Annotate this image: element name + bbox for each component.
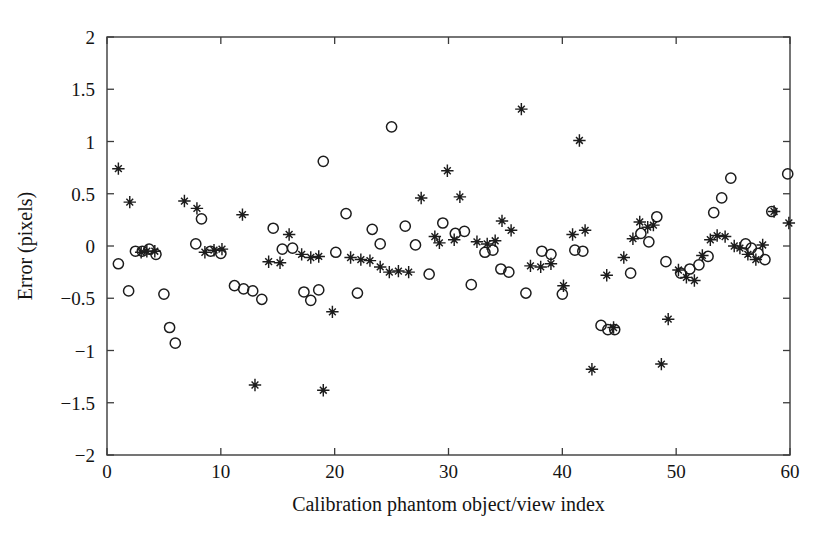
data-point-star (756, 239, 768, 251)
data-point-circle (165, 322, 175, 332)
data-point-star (496, 215, 508, 227)
data-point-circle (341, 209, 351, 219)
data-point-star (719, 230, 731, 242)
data-point-star (634, 216, 646, 228)
data-point-circle (196, 214, 206, 224)
x-tick-label: 40 (553, 461, 572, 482)
data-point-star (505, 224, 517, 236)
data-point-star (662, 313, 674, 325)
data-point-circle (459, 226, 469, 236)
data-point-circle (386, 122, 396, 132)
data-point-star (586, 363, 598, 375)
data-point-circle (726, 173, 736, 183)
y-tick-label: −0.5 (61, 288, 95, 309)
data-point-circle (277, 244, 287, 254)
data-point-circle (709, 207, 719, 217)
data-point-circle (661, 257, 671, 267)
data-point-star (573, 134, 585, 146)
plot-canvas: 0102030405060−2−1.5−1−0.500.511.52 Calib… (0, 0, 825, 541)
data-point-circle (314, 285, 324, 295)
y-axis-title: Error (pixels) (14, 192, 37, 300)
data-point-star (579, 224, 591, 236)
y-tick-label: 1 (86, 132, 96, 153)
data-point-star (415, 192, 427, 204)
data-point-star (454, 191, 466, 203)
data-point-circle (191, 239, 201, 249)
data-point-circle (521, 288, 531, 298)
data-point-circle (318, 156, 328, 166)
data-point-star (618, 251, 630, 263)
data-point-circle (438, 218, 448, 228)
data-point-circle (783, 169, 793, 179)
y-tick-label: 0.5 (71, 184, 95, 205)
x-tick-label: 0 (102, 461, 112, 482)
data-point-circle (410, 240, 420, 250)
data-point-circle (124, 286, 134, 296)
data-point-star (355, 253, 367, 265)
data-point-star (344, 251, 356, 263)
data-point-star (535, 261, 547, 273)
data-point-circle (626, 268, 636, 278)
data-point-circle (159, 289, 169, 299)
data-point-circle (717, 193, 727, 203)
data-point-star (283, 228, 295, 240)
data-point-star (383, 266, 395, 278)
data-point-star (402, 266, 414, 278)
data-point-star (124, 196, 136, 208)
data-point-star (607, 321, 619, 333)
data-point-star (655, 358, 667, 370)
y-tick-label: −1.5 (61, 393, 95, 414)
data-point-circle (257, 294, 267, 304)
data-point-star (688, 274, 700, 286)
data-point-circle (466, 280, 476, 290)
y-tick-label: 0 (86, 236, 96, 257)
data-point-star (524, 260, 536, 272)
ticks-group: 0102030405060−2−1.5−1−0.500.511.52 (61, 27, 800, 482)
x-tick-label: 30 (439, 461, 458, 482)
data-point-circle (375, 239, 385, 249)
data-point-star (374, 261, 386, 273)
data-point-star (274, 257, 286, 269)
data-point-circle (113, 259, 123, 269)
x-tick-label: 50 (667, 461, 686, 482)
data-point-circle (170, 338, 180, 348)
x-tick-label: 20 (325, 461, 344, 482)
data-point-star (112, 162, 124, 174)
data-point-star (566, 228, 578, 240)
data-point-star (392, 265, 404, 277)
data-point-circle (424, 269, 434, 279)
data-point-star (364, 254, 376, 266)
data-point-circle (644, 237, 654, 247)
data-point-star (750, 253, 762, 265)
x-axis-title: Calibration phantom object/view index (292, 493, 605, 516)
data-point-star (783, 217, 795, 229)
y-tick-label: 1.5 (71, 79, 95, 100)
data-point-star (249, 379, 261, 391)
data-point-star (515, 103, 527, 115)
data-points-group (112, 103, 795, 397)
data-point-circle (331, 247, 341, 257)
data-point-star (317, 384, 329, 396)
data-point-star (326, 306, 338, 318)
y-tick-label: 2 (86, 27, 96, 48)
y-tick-label: −2 (75, 445, 95, 466)
data-point-star (262, 255, 274, 267)
y-tick-label: −1 (75, 341, 95, 362)
data-point-star (627, 232, 639, 244)
data-point-star (545, 258, 557, 270)
data-point-circle (557, 289, 567, 299)
data-point-circle (352, 288, 362, 298)
data-point-star (441, 165, 453, 177)
data-point-star (471, 236, 483, 248)
data-point-circle (268, 223, 278, 233)
data-point-star (236, 208, 248, 220)
data-point-circle (248, 286, 258, 296)
data-point-star (178, 195, 190, 207)
scatter-chart-figure: 0102030405060−2−1.5−1−0.500.511.52 Calib… (0, 0, 825, 541)
data-point-star (191, 202, 203, 214)
data-point-circle (400, 221, 410, 231)
data-point-circle (287, 243, 297, 253)
data-point-star (313, 250, 325, 262)
data-point-circle (367, 224, 377, 234)
data-point-circle (306, 295, 316, 305)
